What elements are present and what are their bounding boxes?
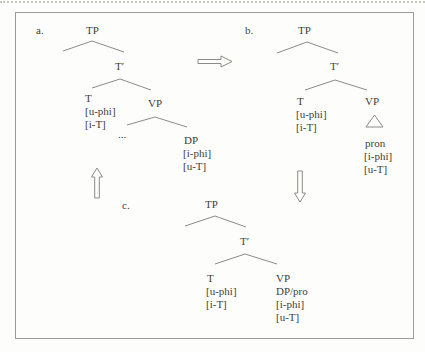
- tree-a-node-vp: VP: [148, 97, 162, 110]
- tree-c-node-dp-pro: DP/pro: [276, 285, 308, 298]
- tree-b-node-vp: VP: [365, 95, 379, 108]
- tree-a-node-dp: DP: [184, 134, 198, 147]
- tree-c-node-tp: TP: [205, 198, 218, 211]
- tree-b-node-pron: pron: [365, 137, 385, 150]
- tree-b-pron-feature-1: [i-phi]: [364, 150, 392, 163]
- tree-b-node-tp: TP: [298, 24, 311, 37]
- tree-a-node-tbar: T′: [115, 60, 124, 73]
- tree-c-node-vp: VP: [276, 272, 290, 285]
- tree-b-label: b.: [245, 24, 253, 37]
- tree-c-node-t: T: [207, 272, 214, 285]
- scanned-figure-page: a. TP T′ T [u-phi] [i-T] VP ... DP [i-ph…: [0, 0, 425, 352]
- tree-b-t-feature-1: [u-phi]: [296, 108, 327, 121]
- tree-b-node-tbar: T′: [330, 60, 339, 73]
- tree-b-t-feature-2: [i-T]: [296, 121, 317, 134]
- tree-a-dp-feature-1: [i-phi]: [183, 147, 211, 160]
- tree-c-dp-pro-feature-2: [u-T]: [276, 311, 299, 324]
- tree-a-t-feature-2: [i-T]: [85, 118, 106, 131]
- tree-b-node-t: T: [297, 95, 304, 108]
- tree-a-node-tp: TP: [86, 24, 99, 37]
- tree-c-label: c.: [122, 199, 130, 212]
- tree-a-t-feature-1: [u-phi]: [85, 105, 116, 118]
- tree-a-dp-feature-2: [u-T]: [183, 160, 206, 173]
- tree-b-pron-feature-2: [u-T]: [364, 163, 387, 176]
- tree-c-node-tbar: T′: [240, 235, 249, 248]
- page-top-dotted-rule: [0, 1, 425, 3]
- tree-a-label: a.: [36, 24, 44, 37]
- tree-c-dp-pro-feature-1: [i-phi]: [276, 298, 304, 311]
- tree-a-node-t: T: [85, 92, 92, 105]
- tree-a-ellipsis: ...: [118, 128, 126, 141]
- tree-c-t-feature-1: [u-phi]: [206, 285, 237, 298]
- tree-c-t-feature-2: [i-T]: [206, 298, 227, 311]
